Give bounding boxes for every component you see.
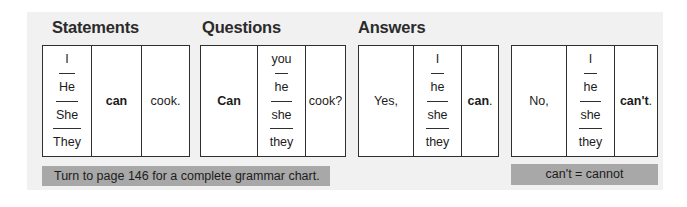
answer-yes-modal-column: can. xyxy=(461,46,498,156)
contraction-note: can't = cannot xyxy=(511,164,658,185)
answer-yes-subject-cell: he xyxy=(431,73,445,101)
answer-yes-subject-cell: they xyxy=(426,128,450,156)
statements-subject-cell: She xyxy=(56,101,78,129)
statements-subject-cell: He xyxy=(59,73,75,101)
section-heading-statements: Statements xyxy=(52,19,139,36)
statements-table: I He She They can cook. xyxy=(42,45,190,157)
grammar-chart-panel: Statements Questions Answers I He She Th… xyxy=(27,12,663,190)
answer-yes-subject-cell: she xyxy=(427,101,447,129)
answer-no-modal-punctuation: . xyxy=(649,94,652,108)
statements-verb-column: cook. xyxy=(141,46,189,156)
answer-yes-lead-column: Yes, xyxy=(359,46,413,156)
answer-no-lead-text: No, xyxy=(529,95,548,108)
answer-yes-modal-word: can xyxy=(467,94,489,108)
answer-no-modal-word: can't xyxy=(620,94,649,108)
questions-table: Can you he she they cook? xyxy=(200,45,346,157)
answer-no-lead-column: No, xyxy=(512,46,566,156)
answer-no-subject-cell: I xyxy=(589,46,592,73)
questions-subject-cell: they xyxy=(270,128,294,156)
answer-no-modal-column: can't. xyxy=(614,46,657,156)
questions-modal-text: Can xyxy=(217,95,241,108)
answer-yes-modal-text: can. xyxy=(467,95,492,108)
answer-no-subject-cell: she xyxy=(580,101,600,129)
answer-no-subject-cell: he xyxy=(584,73,598,101)
answer-yes-modal-punctuation: . xyxy=(489,94,492,108)
page-reference-note: Turn to page 146 for a complete grammar … xyxy=(42,166,330,186)
answer-yes-subject-cell: I xyxy=(436,46,439,73)
questions-subject-cell: he xyxy=(275,73,289,101)
statements-modal-column: can xyxy=(91,46,141,156)
statements-modal-text: can xyxy=(106,95,128,108)
questions-subject-cell: you xyxy=(271,46,291,73)
answer-no-modal-text: can't. xyxy=(620,95,652,108)
questions-subject-cell: she xyxy=(271,101,291,129)
questions-modal-column: Can xyxy=(201,46,257,156)
section-heading-questions: Questions xyxy=(202,19,281,36)
answer-no-subject-cell: they xyxy=(579,128,603,156)
answer-no-subject-column: I he she they xyxy=(566,46,614,156)
answer-yes-lead-text: Yes, xyxy=(374,95,398,108)
answer-no-table: No, I he she they can't. xyxy=(511,45,658,157)
statements-subject-column: I He She They xyxy=(43,46,91,156)
questions-subject-column: you he she they xyxy=(257,46,305,156)
section-heading-answers: Answers xyxy=(358,19,425,36)
statements-verb-text: cook. xyxy=(151,95,181,108)
answer-yes-subject-column: I he she they xyxy=(413,46,461,156)
questions-verb-column: cook? xyxy=(305,46,345,156)
answer-yes-table: Yes, I he she they can. xyxy=(358,45,499,157)
statements-subject-cell: They xyxy=(53,128,81,156)
statements-subject-cell: I xyxy=(65,46,68,73)
questions-verb-text: cook? xyxy=(309,95,342,108)
